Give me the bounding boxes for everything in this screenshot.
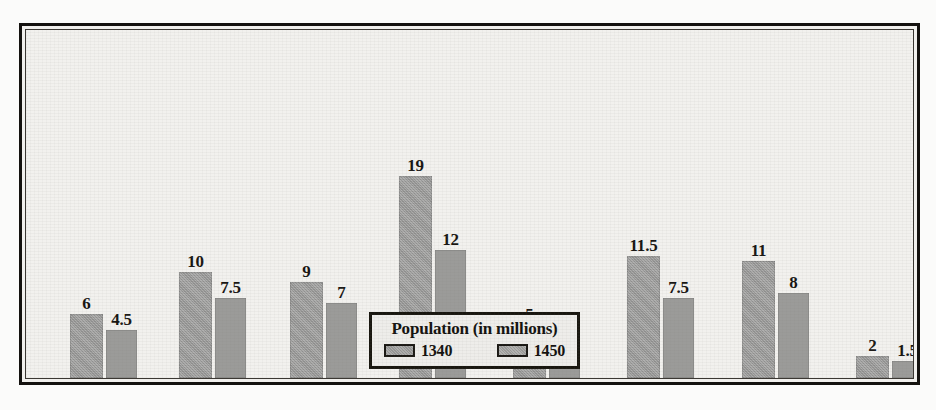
bar-value-1450-greece-and-balkans: 4.5 bbox=[111, 311, 132, 329]
bar-group-hungary: 2 1.5 Hungary bbox=[856, 146, 914, 378]
legend-entries: 1340 1450 bbox=[382, 343, 567, 359]
legend-entry-1450[interactable]: 1450 bbox=[497, 343, 565, 359]
figure-inner-border: 6 4.5 Greece and Balkans 10 7.5 bbox=[25, 29, 914, 379]
bar-value-1340-hungary: 2 bbox=[868, 337, 876, 355]
bar-value-1340-russia-poland-lithuania: 11 bbox=[751, 242, 767, 260]
bar-1340-germany-scandinavia[interactable]: 11.5 bbox=[627, 256, 660, 378]
bar-group-greece-and-balkans: 6 4.5 Greece and Balkans bbox=[70, 146, 137, 378]
bar-1450-greece-and-balkans[interactable]: 4.5 bbox=[106, 330, 137, 378]
bar-1450-iberia[interactable]: 7 bbox=[326, 303, 357, 378]
bar-value-1340-france-low-countries: 19 bbox=[407, 157, 424, 175]
bar-1340-greece-and-balkans[interactable]: 6 bbox=[70, 314, 103, 378]
bar-group-russia-poland-lithuania: 11 8 Russia, Poland-Lithuania bbox=[742, 146, 809, 378]
bar-group-germany-scandinavia: 11.5 7.5 Germany- Scandinavia bbox=[627, 146, 694, 378]
bar-1340-italy[interactable]: 10 bbox=[179, 272, 212, 378]
figure-frame: 6 4.5 Greece and Balkans 10 7.5 bbox=[19, 23, 920, 385]
bar-1340-russia-poland-lithuania[interactable]: 11 bbox=[742, 261, 775, 378]
bar-group-italy: 10 7.5 Italy bbox=[179, 146, 246, 378]
bar-1450-hungary[interactable]: 1.5 bbox=[892, 361, 914, 378]
bar-1340-iberia[interactable]: 9 bbox=[290, 282, 323, 378]
bar-1450-germany-scandinavia[interactable]: 7.5 bbox=[663, 298, 694, 378]
bar-value-1340-italy: 10 bbox=[187, 253, 204, 271]
chart-legend: Population (in millions) 1340 1450 bbox=[369, 312, 580, 369]
bar-1450-russia-poland-lithuania[interactable]: 8 bbox=[778, 293, 809, 378]
bar-value-1450-russia-poland-lithuania: 8 bbox=[789, 274, 797, 292]
bar-value-1450-hungary: 1.5 bbox=[897, 342, 914, 360]
bar-value-1340-germany-scandinavia: 11.5 bbox=[629, 237, 657, 255]
legend-label-1340: 1340 bbox=[421, 343, 452, 359]
bar-1340-hungary[interactable]: 2 bbox=[856, 356, 889, 378]
bar-value-1450-france-low-countries: 12 bbox=[442, 231, 459, 249]
bar-value-1450-germany-scandinavia: 7.5 bbox=[668, 279, 689, 297]
bar-value-1340-iberia: 9 bbox=[302, 263, 310, 281]
bar-1450-italy[interactable]: 7.5 bbox=[215, 298, 246, 378]
bar-value-1450-italy: 7.5 bbox=[220, 279, 241, 297]
bar-value-1340-greece-and-balkans: 6 bbox=[82, 295, 90, 313]
bar-value-1450-iberia: 7 bbox=[337, 284, 345, 302]
legend-label-1450: 1450 bbox=[534, 343, 565, 359]
bar-group-iberia: 9 7 Iberia bbox=[290, 146, 357, 378]
legend-title: Population (in millions) bbox=[382, 320, 567, 339]
legend-swatch-1450-icon bbox=[497, 344, 528, 357]
legend-entry-1340[interactable]: 1340 bbox=[384, 343, 452, 359]
legend-swatch-1340-icon bbox=[384, 344, 415, 357]
